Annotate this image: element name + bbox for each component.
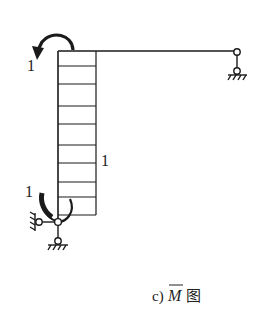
caption-suffix: 图: [186, 288, 201, 304]
moment-diagram-area: [58, 51, 96, 215]
caption-symbol: M: [167, 287, 183, 304]
top-moment-arrow-icon: [32, 35, 73, 60]
diagram-value-label: 1: [101, 152, 109, 169]
caption-prefix: c): [152, 288, 164, 305]
figure-caption: c) M 图: [152, 285, 201, 305]
moment-diagram-figure: 1 1 1 c) M 图: [0, 0, 262, 312]
bottom-moment-label: 1: [25, 183, 33, 200]
top-moment-label: 1: [27, 57, 35, 74]
right-link-support-icon: [228, 49, 247, 80]
